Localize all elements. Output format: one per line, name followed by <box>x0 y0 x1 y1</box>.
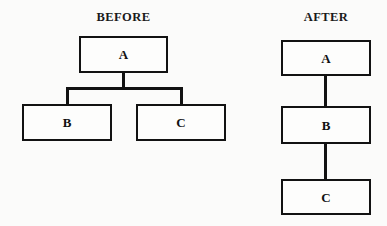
edge-after-b-to-c <box>324 142 327 181</box>
node-label-after-c: C <box>321 191 330 204</box>
edge-after-a-to-b <box>324 74 327 108</box>
node-after-b: B <box>281 106 371 144</box>
node-after-c: C <box>281 179 371 215</box>
node-after-a: A <box>281 40 371 76</box>
diagram-canvas: BEFORE A B C AFTER A B <box>0 0 387 226</box>
node-label-before-b: B <box>63 116 72 129</box>
node-label-before-c: C <box>176 116 185 129</box>
node-label-before-a: A <box>119 48 128 61</box>
edge-before-a-to-c <box>180 87 183 105</box>
node-before-a: A <box>79 36 168 73</box>
panel-title-before: BEFORE <box>79 11 168 24</box>
edge-before-branch-bar <box>66 87 183 90</box>
node-label-after-b: B <box>322 119 331 132</box>
node-label-after-a: A <box>321 52 330 65</box>
node-before-c: C <box>136 104 226 141</box>
node-before-b: B <box>22 104 112 141</box>
panel-title-after: AFTER <box>281 11 371 24</box>
edge-before-a-to-b <box>66 87 69 105</box>
